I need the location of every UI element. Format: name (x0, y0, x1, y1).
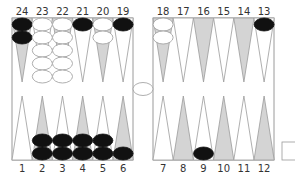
point-label-21: 21 (76, 6, 89, 17)
point-label-10: 10 (217, 163, 230, 174)
backgammon-board: 242322212019181716151413123456789101112 (0, 0, 295, 179)
point-label-6: 6 (120, 163, 126, 174)
white-checker[interactable] (32, 44, 52, 57)
white-checker[interactable] (32, 57, 52, 70)
point-label-7: 7 (160, 163, 166, 174)
doubling-cube[interactable] (133, 83, 153, 96)
black-checker[interactable] (53, 147, 73, 160)
black-checker[interactable] (194, 147, 214, 160)
point-label-4: 4 (80, 163, 86, 174)
point-label-15: 15 (217, 6, 230, 17)
black-checker[interactable] (12, 18, 32, 31)
black-checker[interactable] (12, 31, 32, 44)
white-checker[interactable] (53, 31, 73, 44)
white-checker[interactable] (32, 18, 52, 31)
white-checker[interactable] (53, 44, 73, 57)
white-checker[interactable] (32, 70, 52, 83)
point-label-13: 13 (258, 6, 271, 17)
black-checker[interactable] (73, 134, 93, 147)
black-checker[interactable] (73, 147, 93, 160)
point-label-23: 23 (36, 6, 49, 17)
point-label-2: 2 (39, 163, 45, 174)
point-label-18: 18 (157, 6, 170, 17)
black-checker[interactable] (93, 147, 113, 160)
black-checker[interactable] (254, 18, 274, 31)
white-checker[interactable] (153, 31, 173, 44)
bar[interactable] (133, 83, 153, 96)
black-checker[interactable] (113, 147, 133, 160)
black-checker[interactable] (73, 18, 93, 31)
point-label-19: 19 (117, 6, 130, 17)
point-label-3: 3 (59, 163, 65, 174)
black-checker[interactable] (93, 134, 113, 147)
point-label-12: 12 (258, 163, 271, 174)
point-label-20: 20 (97, 6, 110, 17)
point-label-17: 17 (177, 6, 190, 17)
black-checker[interactable] (32, 134, 52, 147)
point-label-16: 16 (197, 6, 210, 17)
white-checker[interactable] (93, 31, 113, 44)
black-checker[interactable] (53, 134, 73, 147)
white-checker[interactable] (53, 57, 73, 70)
bear-off-tray[interactable] (282, 142, 295, 160)
point-label-11: 11 (238, 163, 251, 174)
point-label-8: 8 (180, 163, 186, 174)
white-checker[interactable] (153, 18, 173, 31)
black-checker[interactable] (113, 18, 133, 31)
bear-off-box[interactable] (282, 142, 295, 160)
point-label-9: 9 (200, 163, 206, 174)
point-label-14: 14 (238, 6, 251, 17)
point-label-22: 22 (56, 6, 69, 17)
point-label-24: 24 (16, 6, 29, 17)
white-checker[interactable] (93, 18, 113, 31)
black-checker[interactable] (32, 147, 52, 160)
white-checker[interactable] (32, 31, 52, 44)
white-checker[interactable] (53, 18, 73, 31)
point-label-1: 1 (19, 163, 25, 174)
white-checker[interactable] (53, 70, 73, 83)
point-label-5: 5 (100, 163, 106, 174)
